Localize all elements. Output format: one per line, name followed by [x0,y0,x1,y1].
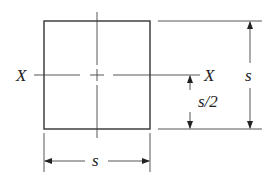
half-height-dimension-label: s/2 [198,92,218,111]
width-dimension-label: s [92,151,99,170]
height-dimension-label: s [245,66,252,85]
axis-label-left: X [15,66,27,85]
diagram-canvas: X X s s/2 s [0,0,272,180]
axis-label-right: X [203,66,215,85]
